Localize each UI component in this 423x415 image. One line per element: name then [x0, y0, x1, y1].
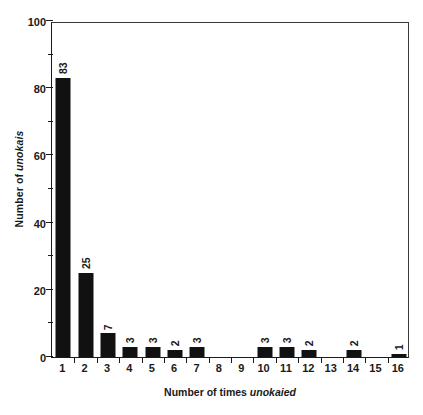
y-axis-tick-label: 100 — [28, 16, 46, 28]
bar — [391, 354, 406, 357]
y-axis-tick-minor — [48, 322, 53, 323]
bar — [347, 350, 362, 357]
bar-group: 2 — [343, 23, 365, 357]
bar-value-label: 7 — [103, 324, 114, 330]
bar-group: 3 — [253, 23, 275, 357]
bar — [257, 347, 272, 357]
bar-value-label: 1 — [394, 344, 405, 350]
y-axis-tick-label: 0 — [40, 352, 46, 364]
plot-area: 83257332333221 — [51, 22, 409, 358]
x-axis-tick-label: 3 — [104, 362, 110, 374]
bar — [123, 347, 138, 357]
y-axis-tick-major — [46, 222, 53, 223]
bar — [190, 347, 205, 357]
y-axis-tick-label: 60 — [34, 150, 46, 162]
x-axis-tick-labels: 12345678910111213141516 — [51, 362, 409, 380]
bar-value-label: 3 — [282, 337, 293, 343]
x-axis-tick-label: 1 — [59, 362, 65, 374]
x-axis-tick-label: 16 — [392, 362, 404, 374]
bar-group: 3 — [276, 23, 298, 357]
x-axis-tick-label: 9 — [238, 362, 244, 374]
bar-value-label: 3 — [147, 337, 158, 343]
x-axis-tick-label: 4 — [126, 362, 132, 374]
x-axis-tick-label: 13 — [325, 362, 337, 374]
y-axis-tick-minor — [48, 188, 53, 189]
x-axis-tick-label: 8 — [216, 362, 222, 374]
bar — [145, 347, 160, 357]
x-axis-title-italic: unokaied — [250, 386, 296, 398]
y-axis-tick-label: 20 — [34, 285, 46, 297]
y-axis-tick-minor — [48, 121, 53, 122]
x-axis-tick-label: 14 — [347, 362, 359, 374]
y-axis-tick-major — [46, 154, 53, 155]
bar — [168, 350, 183, 357]
bar-group: 3 — [142, 23, 164, 357]
y-axis-tick-major — [46, 20, 53, 21]
bar — [302, 350, 317, 357]
bar-value-label: 2 — [170, 341, 181, 347]
y-axis-tick-labels: 020406080100 — [22, 22, 46, 358]
bar-chart: Number of unokais 020406080100 832573323… — [0, 0, 423, 415]
x-axis-tick-label: 5 — [149, 362, 155, 374]
x-axis-title: Number of times unokaied — [51, 386, 409, 398]
x-axis-tick-label: 10 — [257, 362, 269, 374]
x-axis-tick-label: 6 — [171, 362, 177, 374]
bar-value-label: 3 — [125, 337, 136, 343]
y-axis-tick-major — [46, 356, 53, 357]
x-axis-title-plain: Number of times — [164, 386, 250, 398]
bar-value-label: 3 — [192, 337, 203, 343]
y-axis-tick-label: 80 — [34, 83, 46, 95]
bar-value-label: 83 — [58, 62, 69, 74]
bars-layer: 83257332333221 — [52, 23, 408, 357]
y-axis-tick-minor — [48, 54, 53, 55]
bar-group: 2 — [298, 23, 320, 357]
bar-group: 83 — [52, 23, 74, 357]
bar-value-label: 2 — [349, 341, 360, 347]
bar-value-label: 2 — [304, 341, 315, 347]
bar-value-label: 3 — [259, 337, 270, 343]
bar-group: 1 — [388, 23, 410, 357]
bar — [279, 347, 294, 357]
bar-group — [231, 23, 253, 357]
bar-group: 2 — [164, 23, 186, 357]
bar — [78, 273, 93, 357]
bar-group: 3 — [186, 23, 208, 357]
x-axis-tick-label: 11 — [280, 362, 292, 374]
bar — [100, 333, 115, 357]
bar-group — [321, 23, 343, 357]
y-axis-tick-minor — [48, 255, 53, 256]
x-axis-tick-label: 2 — [82, 362, 88, 374]
bar-group — [365, 23, 387, 357]
bar-group — [209, 23, 231, 357]
y-axis-tick-major — [46, 289, 53, 290]
y-axis-tick-major — [46, 87, 53, 88]
x-axis-tick-label: 15 — [369, 362, 381, 374]
x-axis-tick-label: 12 — [302, 362, 314, 374]
bar-value-label: 25 — [80, 257, 91, 269]
bar — [56, 78, 71, 357]
bar-group: 7 — [97, 23, 119, 357]
bar-group: 3 — [119, 23, 141, 357]
x-axis-tick-label: 7 — [193, 362, 199, 374]
bar-group: 25 — [74, 23, 96, 357]
y-axis-tick-label: 40 — [34, 218, 46, 230]
